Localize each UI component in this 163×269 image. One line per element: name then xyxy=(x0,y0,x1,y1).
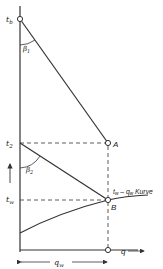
label-point-b: B xyxy=(111,203,117,212)
label-tb: tb xyxy=(6,15,13,25)
point-qw xyxy=(105,247,110,252)
point-tb xyxy=(17,16,22,21)
label-q-axis: q xyxy=(121,247,126,256)
point-a xyxy=(105,140,110,145)
label-tw: tw xyxy=(6,195,14,205)
point-b xyxy=(105,197,110,202)
label-beta2: β2 xyxy=(25,166,33,175)
label-beta1: β1 xyxy=(22,45,30,54)
tw-qw-curve xyxy=(20,195,148,233)
line-tb-to-a xyxy=(20,19,108,143)
heat-transfer-diagram: tb β1 t2 β2 tw A B tw – qw Kurve q qw xyxy=(0,0,163,269)
label-t2: t2 xyxy=(6,139,13,149)
label-point-a: A xyxy=(112,140,118,149)
